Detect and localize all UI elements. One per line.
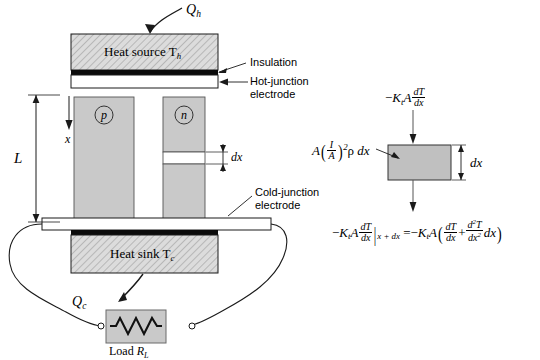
load-label: Load RL — [109, 344, 149, 360]
n-leg-label: n — [181, 108, 187, 123]
element-bottom-flux-arrow — [410, 180, 417, 212]
cold-junction-black-bar — [71, 230, 218, 235]
element-top-flux-arrow — [410, 110, 417, 144]
q-hot-arrowhead — [145, 24, 155, 34]
q-hot-arrow — [150, 8, 182, 32]
cold-junction-leader-line — [228, 196, 252, 216]
dx-label-element: dx — [470, 155, 482, 171]
n-leg-dx-gap — [163, 152, 205, 164]
element-bottom-flux-equation: −KtAdTdx|x + dx =−KtA(dTdx+d2Tdx2dx) — [332, 218, 502, 246]
x-direction-label: x — [65, 132, 70, 147]
hot-junction-electrode-bar — [71, 75, 218, 88]
insulation-bar — [71, 70, 218, 75]
thermoelectric-generator-figure: Qh Heat source Th Insulation Hot-junctio… — [0, 0, 540, 360]
heat-sink-label: Heat sink Tc — [110, 246, 174, 263]
q-hot-label: Qh — [186, 2, 201, 19]
heat-source-label: Heat source Th — [104, 44, 181, 61]
dx-label-main: dx — [231, 150, 242, 165]
n-leg-lower-block — [163, 164, 205, 221]
hot-junction-electrode-callout-label: Hot-junction electrode — [250, 75, 309, 101]
element-joule-term-equation: A(IA)2ρ dx — [312, 140, 370, 163]
hot-junction-leader-arrowhead — [219, 79, 228, 86]
insulation-leader-arrowhead — [218, 68, 227, 73]
load-right-terminal — [189, 323, 195, 329]
element-top-flux-equation: −KtAdTdx — [385, 87, 426, 109]
element-dx-dimension — [452, 145, 466, 180]
p-leg-label: p — [101, 108, 107, 123]
length-label: L — [14, 150, 22, 167]
insulation-callout-label: Insulation — [250, 56, 297, 69]
element-control-volume-box — [388, 145, 451, 180]
dx-dimension-main — [206, 144, 228, 172]
q-cold-label: Qc — [72, 294, 86, 311]
x-direction-arrow — [65, 96, 72, 130]
load-left-terminal — [98, 323, 104, 329]
cold-junction-electrode-callout-label: Cold-junction electrode — [255, 186, 319, 212]
length-dimension — [28, 95, 60, 222]
cold-junction-electrode-bar — [42, 218, 271, 230]
